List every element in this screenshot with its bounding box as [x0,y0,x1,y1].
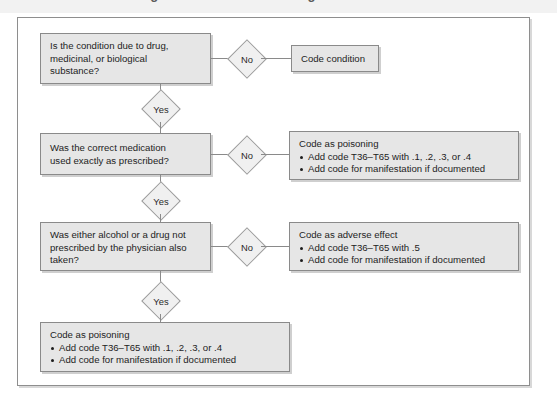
question-box-2-text: Was the correct medication used exactly … [50,142,202,167]
decision-no-1: No [226,38,268,80]
flowchart-page: Coding Guidelines for Poisoning and Adve… [0,0,557,403]
decision-no-3-label: No [226,226,268,268]
page-title: Coding Guidelines for Poisoning and Adve… [0,0,557,2]
decision-yes-1-label: Yes [140,88,182,130]
outcome-box-1: Code condition [291,45,379,72]
decision-no-2-label: No [226,134,268,176]
outcome-box-4-bullets: Add code T36–T65 with .1, .2, .3, or .4 … [50,342,281,367]
outcome-box-1-head: Code condition [301,53,370,66]
question-box-3-text: Was either alcohol or a drug not prescri… [50,229,202,267]
page-title-strip: Coding Guidelines for Poisoning and Adve… [0,0,557,13]
decision-yes-2-label: Yes [140,180,182,222]
question-box-1: Is the condition due to drug, medicinal,… [40,33,211,84]
decision-yes-2: Yes [140,180,182,222]
list-item: Add code for manifestation if documented [299,254,510,267]
connector-no1-to-out1 [261,58,291,59]
outcome-box-2-bullets: Add code T36–T65 with .1, .2, .3, or .4 … [299,151,510,176]
decision-yes-3: Yes [140,280,182,322]
outcome-box-3: Code as adverse effect Add code T36–T65 … [289,222,519,271]
list-item: Add code T36–T65 with .5 [299,242,510,255]
decision-no-3: No [226,226,268,268]
connector-no2-to-out2 [261,154,289,155]
question-box-3: Was either alcohol or a drug not prescri… [40,222,211,271]
question-box-2: Was the correct medication used exactly … [40,133,211,175]
outcome-box-4: Code as poisoning Add code T36–T65 with … [40,322,290,372]
outcome-box-3-head: Code as adverse effect [299,229,510,242]
decision-yes-3-label: Yes [140,280,182,322]
outcome-box-4-head: Code as poisoning [50,329,281,342]
decision-no-1-label: No [226,38,268,80]
flowchart-frame: Is the condition due to drug, medicinal,… [17,17,530,386]
question-box-1-text: Is the condition due to drug, medicinal,… [50,40,202,78]
list-item: Add code for manifestation if documented [50,354,281,367]
decision-yes-1: Yes [140,88,182,130]
connector-no3-to-out3 [261,246,289,247]
outcome-box-3-bullets: Add code T36–T65 with .5 Add code for ma… [299,242,510,267]
list-item: Add code for manifestation if documented [299,163,510,176]
outcome-box-2-head: Code as poisoning [299,138,510,151]
decision-no-2: No [226,134,268,176]
list-item: Add code T36–T65 with .1, .2, .3, or .4 [299,151,510,164]
list-item: Add code T36–T65 with .1, .2, .3, or .4 [50,342,281,355]
outcome-box-2: Code as poisoning Add code T36–T65 with … [289,131,519,180]
